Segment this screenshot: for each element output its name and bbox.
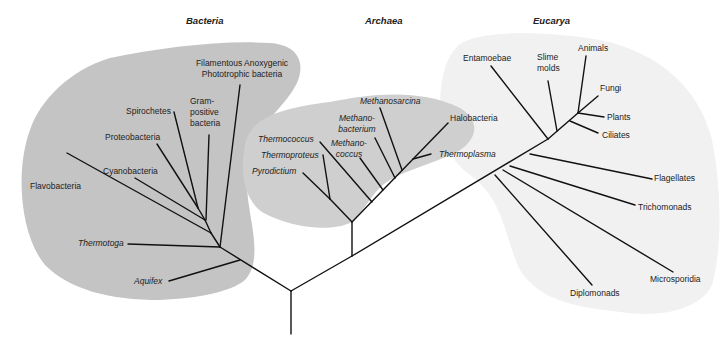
label-methanococcus: Methano- coccus xyxy=(326,138,372,160)
label-thermoplasma: Thermoplasma xyxy=(439,149,496,160)
label-fungi: Fungi xyxy=(600,83,621,94)
domain-title-archaea: Archaea xyxy=(365,15,403,26)
label-diplomonads: Diplomonads xyxy=(570,288,620,299)
label-thermococcus: Thermococcus xyxy=(258,134,314,145)
domain-title-eucarya: Eucarya xyxy=(533,15,570,26)
label-thermotoga: Thermotoga xyxy=(78,238,124,249)
label-microsporidia: Microsporidia xyxy=(650,274,701,285)
label-halobacteria: Halobacteria xyxy=(450,113,498,124)
label-gram-positive-bacteria: Gram- positive bacteria xyxy=(190,96,220,129)
label-entamoebae: Entamoebae xyxy=(463,53,511,64)
label-cyanobacteria: Cyanobacteria xyxy=(103,166,158,177)
domain-title-bacteria: Bacteria xyxy=(186,15,224,26)
label-plants: Plants xyxy=(607,112,631,123)
label-slime-molds: Slime molds xyxy=(537,52,560,74)
label-aquifex: Aquifex xyxy=(134,276,162,287)
label-spirochetes: Spirochetes xyxy=(126,106,171,117)
label-flagellates: Flagellates xyxy=(654,173,695,184)
label-methanosarcina: Methanosarcina xyxy=(360,96,420,107)
label-trichomonads: Trichomonads xyxy=(638,202,692,213)
label-pyrodictium: Pyrodictium xyxy=(252,166,296,177)
label-animals: Animals xyxy=(578,43,608,54)
label-thermoproteus: Thermoproteus xyxy=(261,150,319,161)
label-filamentous-anoxygenic-phototrophic-bacteria: Filamentous Anoxygenic Phototrophic bact… xyxy=(192,58,292,80)
label-proteobacteria: Proteobacteria xyxy=(105,132,160,143)
archaea-eucarya-stem xyxy=(291,256,352,291)
label-methanobacterium: Methano- bacterium xyxy=(332,113,382,135)
label-ciliates: Ciliates xyxy=(602,130,630,141)
label-flavobacteria: Flavobacteria xyxy=(30,181,81,192)
